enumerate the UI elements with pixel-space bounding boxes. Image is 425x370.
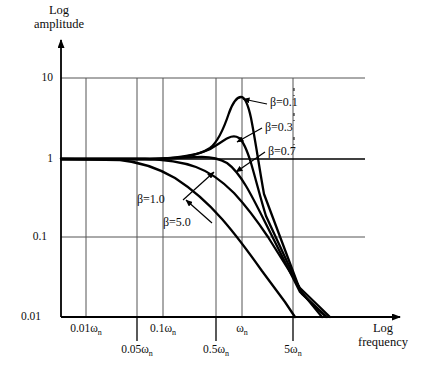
x-axis-title-line1: Log [348,322,418,336]
y-axis-title-line2: amplitude [22,18,96,32]
chart-canvas [0,0,425,370]
curve-beta-5_0 [61,159,295,317]
y-axis-title-line1: Log [22,4,96,18]
x-tick-label-0_1wn: 0.1ωn [133,322,193,338]
grid-lines [61,78,365,317]
y-axis-title: Log amplitude [22,4,96,31]
curve-label-beta-1_0: β=1.0 [137,193,165,206]
curve-label-beta-0_1: β=0.1 [270,96,298,109]
y-tick-label-0_1: 0.1 [13,230,47,242]
x-tick-label-wn: ωn [212,322,272,338]
bode-magnitude-figure: Log amplitude Log frequency 10 1 0.1 0.0… [0,0,425,370]
leader-beta-0_3 [237,128,262,142]
x-tick-label-5wn: 5ωn [263,343,323,359]
x-axis-title-line2: frequency [348,336,418,350]
x-tick-label-0_05wn: 0.05ωn [107,343,167,359]
curve-label-beta-0_7: β=0.7 [268,145,296,158]
curve-beta-0_3 [61,137,326,318]
y-tick-label-0_01: 0.01 [7,310,41,322]
y-tick-label-1: 1 [19,152,53,164]
x-tick-label-0_01wn: 0.01ωn [56,322,116,338]
y-tick-label-10: 10 [19,71,53,83]
x-axis-title: Log frequency [348,322,418,349]
curve-label-beta-0_3: β=0.3 [265,121,293,134]
curve-label-beta-5_0: β=5.0 [163,216,191,229]
curve-beta-1_0 [61,159,330,317]
x-tick-label-0_5wn: 0.5ωn [186,343,246,359]
